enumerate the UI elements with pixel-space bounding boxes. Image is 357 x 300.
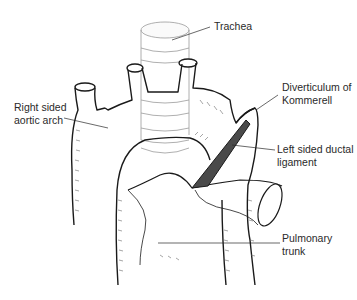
- label-left-sided-ductal-ligament: Left sided ductal ligament: [277, 143, 353, 169]
- aortic-arch-drawing: [72, 59, 258, 285]
- shading-hatch: [75, 100, 255, 271]
- label-text: Pulmonary: [282, 232, 332, 245]
- pulmonary-trunk-drawing: [128, 173, 287, 265]
- trachea-drawing: [141, 22, 189, 153]
- label-text: Right sided: [14, 101, 67, 114]
- label-diverticulum-of-kommerell: Diverticulum of Kommerell: [282, 81, 351, 107]
- label-right-aortic-arch: Right sided aortic arch: [14, 101, 67, 127]
- label-text: Trachea: [214, 20, 252, 33]
- label-text: ligament: [277, 156, 353, 169]
- label-text: Diverticulum of: [282, 81, 351, 94]
- label-text: Kommerell: [282, 94, 351, 107]
- ductal-ligament-drawing: [192, 120, 250, 188]
- label-pulmonary-trunk: Pulmonary trunk: [282, 232, 332, 258]
- label-text: aortic arch: [14, 114, 67, 127]
- label-text: trunk: [282, 245, 332, 258]
- label-trachea: Trachea: [214, 20, 252, 33]
- label-text: Left sided ductal: [277, 143, 353, 156]
